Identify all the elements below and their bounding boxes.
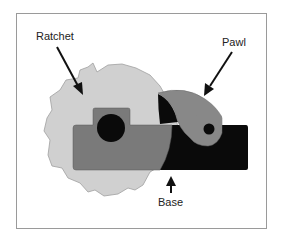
pawl-label: Pawl xyxy=(222,36,246,48)
pawl-pivot-hole xyxy=(204,124,215,135)
ratchet-label: Ratchet xyxy=(36,30,74,42)
base-arrow-icon xyxy=(166,176,176,193)
ratchet-axle-hole xyxy=(97,114,125,142)
base-label: Base xyxy=(158,196,183,208)
pawl-arrow-icon xyxy=(204,52,232,96)
